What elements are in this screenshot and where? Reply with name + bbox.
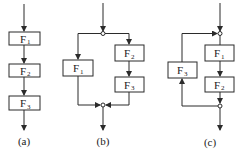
block-a-f2: F 2 (9, 64, 40, 78)
summing-point (218, 32, 222, 36)
block-c-f2: F 2 (205, 77, 234, 92)
diagram-b-parallel: F 1 F 2 F 3 (b) (63, 3, 144, 148)
svg-text:2: 2 (131, 53, 135, 61)
caption-b: (b) (97, 135, 110, 148)
merge-left-arrow (78, 76, 100, 105)
takeoff-point (218, 104, 222, 108)
branch-right-arrow (105, 34, 129, 45)
svg-text:1: 1 (27, 38, 31, 46)
svg-text:1: 1 (80, 68, 84, 76)
svg-text:F: F (124, 79, 130, 91)
caption-c: (c) (204, 136, 217, 149)
svg-text:1: 1 (221, 53, 225, 61)
diagram-c-feedback: F 1 F 2 F 3 (c) (168, 3, 234, 149)
block-c-f3: F 3 (168, 62, 197, 78)
svg-text:F: F (73, 62, 79, 74)
svg-text:F: F (214, 79, 220, 91)
svg-text:3: 3 (131, 84, 135, 92)
block-a-f1: F 1 (9, 32, 40, 46)
branch-left-arrow (78, 34, 101, 60)
block-a-f3: F 3 (9, 96, 40, 111)
svg-text:F: F (20, 65, 26, 77)
svg-text:3: 3 (184, 70, 188, 78)
svg-text:F: F (177, 64, 183, 76)
block-b-f1: F 1 (63, 60, 93, 76)
branch-point (101, 32, 105, 36)
svg-text:F: F (20, 33, 26, 45)
caption-a: (a) (18, 135, 31, 148)
block-c-f1: F 1 (205, 45, 234, 61)
svg-text:3: 3 (27, 103, 31, 111)
svg-text:2: 2 (221, 84, 225, 92)
svg-text:F: F (124, 47, 130, 59)
svg-text:2: 2 (27, 70, 31, 78)
block-b-f3: F 3 (115, 77, 144, 92)
svg-text:F: F (214, 47, 220, 59)
summing-point (101, 103, 105, 107)
diagram-a-series: F 1 F 2 F 3 (a) (9, 4, 40, 148)
block-b-f2: F 2 (115, 45, 144, 61)
merge-right-arrow (106, 92, 129, 105)
svg-text:F: F (20, 97, 26, 109)
